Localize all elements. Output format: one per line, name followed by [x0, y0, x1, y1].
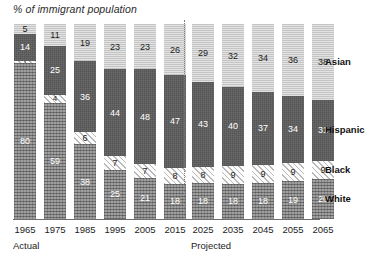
segment-value-label: 14: [14, 43, 36, 52]
segment-hispanic-2045: 37: [252, 92, 274, 166]
bar-2065: 3831920: [312, 24, 334, 219]
segment-hispanic-1965: 14: [14, 34, 36, 61]
segment-value-label: 26: [164, 45, 186, 54]
x-tick-2045: 2045: [248, 224, 278, 235]
segment-white-2025: 18: [192, 183, 214, 219]
segment-value-label: 11: [44, 30, 66, 39]
x-tick-1985: 1985: [70, 224, 100, 235]
chart-title: % of immigrant population: [13, 3, 137, 15]
segment-value-label: 48: [134, 112, 156, 121]
segment-value-label: 34: [252, 53, 274, 62]
segment-black-1985: 6: [74, 132, 96, 144]
plot-area: 5141801125459193663823447252348721264781…: [0, 24, 382, 219]
segment-white-2055: 19: [282, 181, 304, 219]
segment-white-1975: 59: [44, 103, 66, 219]
segment-value-label: 23: [104, 42, 126, 51]
x-tick-2015: 2015: [160, 224, 190, 235]
segment-value-label: 18: [164, 197, 186, 206]
segment-value-label: 36: [282, 55, 304, 64]
segment-hispanic-1995: 44: [104, 69, 126, 156]
segment-value-label: 23: [134, 42, 156, 51]
segment-value-label: 19: [74, 38, 96, 47]
segment-value-label: 40: [222, 122, 244, 131]
segment-hispanic-1985: 36: [74, 61, 96, 132]
segment-value-label: 47: [164, 117, 186, 126]
segment-value-label: 9: [222, 170, 244, 179]
segment-value-label: 7: [134, 166, 156, 175]
segment-asian-2045: 34: [252, 24, 274, 92]
x-axis-baseline: [13, 219, 320, 220]
bar-2015: 2647818: [164, 24, 186, 219]
segment-value-label: 80: [14, 136, 36, 145]
segment-black-1995: 7: [104, 156, 126, 170]
segment-hispanic-2005: 48: [134, 69, 156, 164]
segment-value-label: 21: [134, 194, 156, 203]
segment-white-1995: 25: [104, 170, 126, 219]
segment-value-label: 8: [164, 171, 186, 180]
bar-1995: 2344725: [104, 24, 126, 219]
x-tick-2005: 2005: [130, 224, 160, 235]
segment-value-label: 29: [192, 48, 214, 57]
segment-asian-1995: 23: [104, 24, 126, 69]
x-tick-2035: 2035: [218, 224, 248, 235]
segment-value-label: 7: [104, 158, 126, 167]
bar-2025: 2943818: [192, 24, 214, 219]
segment-value-label: 25: [44, 66, 66, 75]
segment-value-label: 44: [104, 108, 126, 117]
segment-hispanic-2055: 34: [282, 96, 304, 164]
bar-1965: 514180: [14, 24, 36, 219]
segment-value-label: 32: [222, 51, 244, 60]
segment-value-label: 43: [192, 120, 214, 129]
segment-white-2015: 18: [164, 184, 186, 219]
segment-black-2025: 8: [192, 167, 214, 183]
segment-value-label: 18: [252, 197, 274, 206]
segment-asian-2015: 26: [164, 24, 186, 75]
segment-value-label: 19: [282, 196, 304, 205]
segment-value-label: 25: [104, 190, 126, 199]
immigrant-population-stacked-bar-chart: % of immigrant population 51418011254591…: [0, 0, 382, 263]
segment-black-2045: 9: [252, 165, 274, 183]
legend-label-white: White: [325, 193, 351, 204]
segment-value-label: 18: [192, 197, 214, 206]
bar-2045: 3437918: [252, 24, 274, 219]
segment-asian-2005: 23: [134, 24, 156, 69]
segment-black-2005: 7: [134, 164, 156, 178]
bar-1975: 1125459: [44, 24, 66, 219]
segment-value-label: 4: [44, 95, 66, 103]
actual-projected-divider: [184, 20, 185, 220]
bar-2035: 3240918: [222, 24, 244, 219]
segment-asian-1975: 11: [44, 24, 66, 46]
x-tick-1995: 1995: [100, 224, 130, 235]
segment-black-2055: 9: [282, 163, 304, 181]
bar-2005: 2348721: [134, 24, 156, 219]
segment-asian-1985: 19: [74, 24, 96, 61]
segment-value-label: 59: [44, 156, 66, 165]
segment-value-label: 8: [192, 171, 214, 180]
segment-hispanic-2025: 43: [192, 82, 214, 168]
segment-black-2015: 8: [164, 168, 186, 184]
segment-value-label: 18: [222, 197, 244, 206]
segment-asian-2025: 29: [192, 24, 214, 82]
segment-value-label: 5: [14, 24, 36, 33]
x-tick-1965: 1965: [10, 224, 40, 235]
segment-white-1965: 80: [14, 63, 36, 219]
segment-white-2005: 21: [134, 178, 156, 219]
x-tick-2025: 2025: [188, 224, 218, 235]
group-label-projected: Projected: [191, 240, 231, 251]
segment-white-2045: 18: [252, 183, 274, 219]
group-label-actual: Actual: [13, 240, 39, 251]
segment-black-2035: 9: [222, 166, 244, 184]
segment-asian-1965: 5: [14, 24, 36, 34]
segment-value-label: 36: [74, 92, 96, 101]
segment-value-label: 34: [282, 125, 304, 134]
x-tick-2065: 2065: [308, 224, 338, 235]
segment-asian-2035: 32: [222, 24, 244, 87]
segment-value-label: 9: [252, 170, 274, 179]
segment-value-label: 6: [74, 134, 96, 143]
segment-hispanic-2035: 40: [222, 87, 244, 166]
segment-hispanic-1975: 25: [44, 46, 66, 95]
x-tick-1975: 1975: [40, 224, 70, 235]
bar-2055: 3634919: [282, 24, 304, 219]
bar-1985: 1936638: [74, 24, 96, 219]
x-tick-2055: 2055: [278, 224, 308, 235]
